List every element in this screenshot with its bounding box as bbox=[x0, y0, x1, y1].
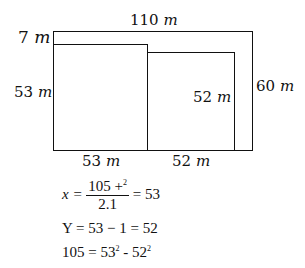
label-bottom-right: 52 m bbox=[172, 152, 210, 170]
label-outer-right: 60 m bbox=[256, 77, 294, 95]
label-inner-right: 52 m bbox=[193, 88, 231, 106]
label-left: 53 m bbox=[14, 83, 52, 101]
equation-y: Y = 53 − 1 = 52 bbox=[62, 220, 158, 237]
label-top-left: 7 m bbox=[18, 27, 50, 47]
equation-difference-of-squares: 105 = 532 - 522 bbox=[62, 244, 151, 261]
left-square bbox=[53, 44, 148, 151]
equation-x: x = 105 +22.1 = 53 bbox=[62, 178, 160, 213]
label-top: 110 m bbox=[130, 11, 178, 29]
label-bottom-left: 53 m bbox=[82, 152, 120, 170]
